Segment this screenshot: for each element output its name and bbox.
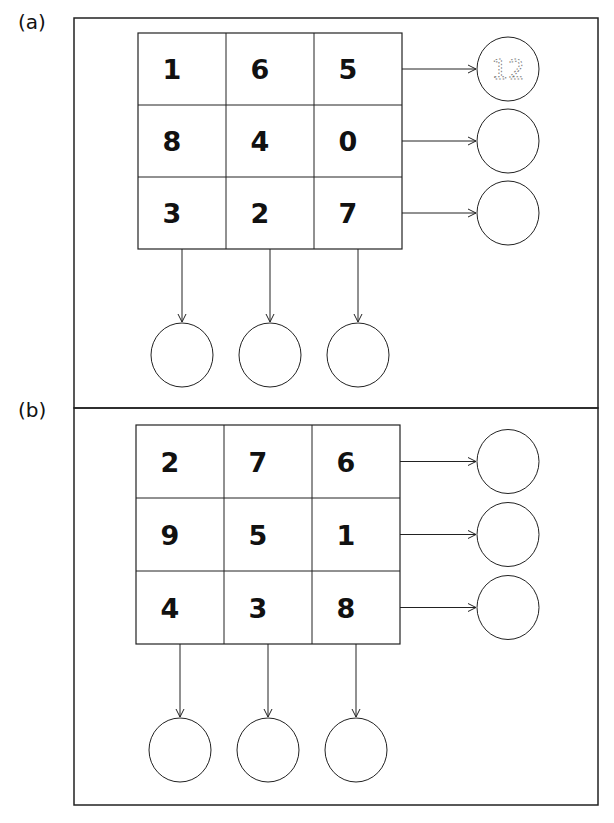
column-sum-answer-circle[interactable] [327, 323, 389, 387]
grid-cell-number: 7 [249, 447, 268, 478]
grid-cell-number: 4 [161, 593, 180, 624]
grid-cell-number: 5 [249, 520, 268, 551]
grid-cell-number: 0 [339, 126, 358, 157]
row-sum-answer-circle[interactable] [477, 181, 539, 245]
column-sum-answer-circle[interactable] [237, 718, 299, 782]
grid-cell-number: 6 [251, 54, 270, 85]
column-sum-answer-circle[interactable] [239, 323, 301, 387]
grid-cell-number: 8 [337, 593, 356, 624]
row-sum-answer-circle[interactable] [477, 576, 539, 640]
diagram-canvas: 16584032712 276951438 [0, 0, 614, 823]
grid-cell-number: 9 [161, 520, 180, 551]
column-sum-answer-circle[interactable] [325, 718, 387, 782]
grid-cell-number: 3 [249, 593, 268, 624]
example-answer-hint: 12 [491, 55, 524, 85]
row-sum-answer-circle[interactable] [477, 430, 539, 494]
panel-b-grid: 276951438 [136, 425, 539, 782]
grid-cell-number: 2 [251, 198, 270, 229]
panel-a-grid: 16584032712 [138, 33, 539, 387]
grid-cell-number: 1 [337, 520, 356, 551]
grid-cell-number: 1 [163, 54, 182, 85]
row-sum-answer-circle[interactable] [477, 109, 539, 173]
grid-cell-number: 3 [163, 198, 182, 229]
grid-cell-number: 8 [163, 126, 182, 157]
column-sum-answer-circle[interactable] [149, 718, 211, 782]
grid-cell-number: 2 [161, 447, 180, 478]
grid-cell-number: 7 [339, 198, 358, 229]
grid-cell-number: 5 [339, 54, 358, 85]
grid-cell-number: 6 [337, 447, 356, 478]
row-sum-answer-circle[interactable] [477, 503, 539, 567]
column-sum-answer-circle[interactable] [151, 323, 213, 387]
grid-cell-number: 4 [251, 126, 270, 157]
